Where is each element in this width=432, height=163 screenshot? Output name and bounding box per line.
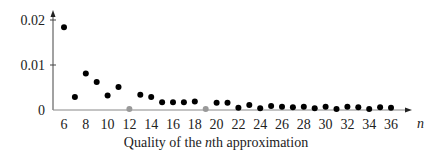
x-tick-label: 16 bbox=[166, 117, 180, 132]
x-tick-label: 10 bbox=[101, 117, 115, 132]
x-tick-label: 22 bbox=[231, 117, 245, 132]
data-point bbox=[366, 106, 372, 112]
data-point bbox=[246, 102, 252, 108]
x-tick-label: 24 bbox=[253, 117, 267, 132]
scatter-chart: n 00.010.02 6810121416182022242628303234… bbox=[0, 0, 432, 135]
caption-prefix: Quality of the bbox=[124, 135, 205, 150]
x-tick-label: 20 bbox=[210, 117, 224, 132]
y-tick-label: 0.01 bbox=[21, 58, 46, 73]
data-point bbox=[126, 106, 132, 112]
y-ticks: 00.010.02 bbox=[21, 13, 57, 118]
data-point bbox=[137, 92, 143, 98]
x-tick-label: 26 bbox=[275, 117, 289, 132]
x-tick-label: 30 bbox=[319, 117, 333, 132]
data-point bbox=[214, 100, 220, 106]
data-point bbox=[344, 104, 350, 110]
chart-caption: Quality of the nth approximation bbox=[0, 135, 432, 151]
x-tick-label: 32 bbox=[340, 117, 354, 132]
x-axis-arrow-icon bbox=[405, 108, 412, 113]
x-tick-label: 8 bbox=[82, 117, 89, 132]
axes: n bbox=[51, 10, 425, 131]
x-ticks: 681012141618202224262830323436 bbox=[61, 117, 399, 132]
x-tick-label: 14 bbox=[144, 117, 158, 132]
x-tick-label: 18 bbox=[188, 117, 202, 132]
data-points bbox=[61, 24, 394, 112]
data-point bbox=[192, 98, 198, 104]
data-point bbox=[72, 94, 78, 100]
y-axis-arrow-icon bbox=[51, 10, 56, 17]
data-point bbox=[312, 105, 318, 111]
data-point bbox=[388, 105, 394, 111]
data-point bbox=[105, 93, 111, 99]
data-point bbox=[181, 99, 187, 105]
data-point bbox=[159, 99, 165, 105]
data-point bbox=[377, 104, 383, 110]
data-point bbox=[257, 105, 263, 111]
x-tick-label: 28 bbox=[297, 117, 311, 132]
x-axis-label: n bbox=[417, 116, 424, 131]
y-tick-label: 0.02 bbox=[21, 13, 46, 28]
data-point bbox=[355, 104, 361, 110]
data-point bbox=[235, 105, 241, 111]
x-tick-label: 6 bbox=[61, 117, 68, 132]
data-point bbox=[83, 71, 89, 77]
data-point bbox=[61, 24, 67, 30]
caption-suffix: th approximation bbox=[212, 135, 308, 150]
data-point bbox=[323, 104, 329, 110]
data-point bbox=[279, 104, 285, 110]
data-point bbox=[334, 106, 340, 112]
data-point bbox=[301, 104, 307, 110]
data-point bbox=[148, 94, 154, 100]
x-tick-label: 12 bbox=[122, 117, 136, 132]
data-point bbox=[290, 104, 296, 110]
data-point bbox=[170, 99, 176, 105]
y-tick-label: 0 bbox=[38, 103, 45, 118]
data-point bbox=[225, 100, 231, 106]
data-point bbox=[203, 106, 209, 112]
data-point bbox=[94, 79, 100, 85]
data-point bbox=[116, 84, 122, 90]
data-point bbox=[268, 103, 274, 109]
x-tick-label: 34 bbox=[362, 117, 376, 132]
x-tick-label: 36 bbox=[384, 117, 398, 132]
